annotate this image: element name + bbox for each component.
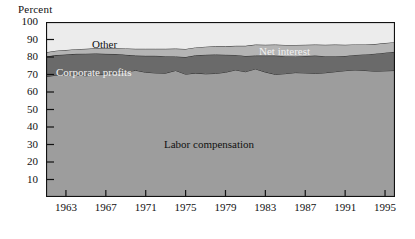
y-axis-tick-80: 80 <box>12 50 38 62</box>
y-axis-tick-90: 90 <box>12 33 38 45</box>
y-axis-tick-60: 60 <box>12 85 38 97</box>
x-axis-tick-1991: 1991 <box>325 201 365 213</box>
series-label-other: Other <box>92 38 117 50</box>
x-axis-tick-1963: 1963 <box>46 201 86 213</box>
y-axis-tick-100: 100 <box>12 15 38 27</box>
y-axis-tick-10: 10 <box>12 173 38 185</box>
x-axis-tick-1995: 1995 <box>365 201 405 213</box>
x-axis-tick-1983: 1983 <box>245 201 285 213</box>
x-axis-tick-1975: 1975 <box>166 201 206 213</box>
series-label-corporate-profits: Corporate profits <box>56 66 131 78</box>
x-axis-tick-1967: 1967 <box>86 201 126 213</box>
y-axis-tick-20: 20 <box>12 155 38 167</box>
y-axis-tick-50: 50 <box>12 103 38 115</box>
x-axis-tick-1979: 1979 <box>205 201 245 213</box>
x-axis-tick-1987: 1987 <box>285 201 325 213</box>
y-axis-title: Percent <box>18 3 52 15</box>
y-axis-tick-30: 30 <box>12 138 38 150</box>
y-axis-tick-40: 40 <box>12 120 38 132</box>
chart-figure: Percent 102030405060708090100 1963196719… <box>0 0 415 239</box>
area-band-labor-compensation <box>46 69 395 197</box>
x-axis-tick-1971: 1971 <box>126 201 166 213</box>
series-label-net-interest: Net interest <box>259 45 310 57</box>
y-axis-tick-70: 70 <box>12 68 38 80</box>
series-label-labor-compensation: Labor compensation <box>164 138 254 150</box>
